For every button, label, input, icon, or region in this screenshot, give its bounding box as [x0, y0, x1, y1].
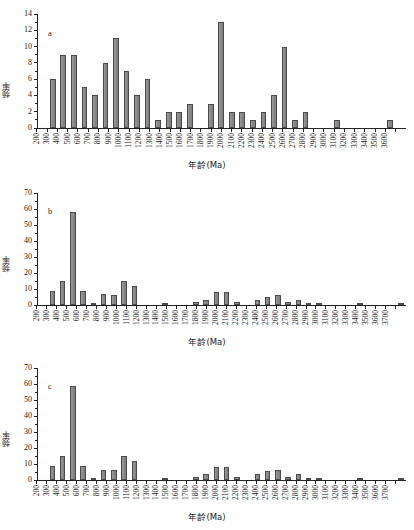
bar-slot — [248, 14, 259, 128]
x-tick-mark — [226, 481, 227, 484]
bar-slot — [150, 368, 160, 480]
bar-300 — [50, 79, 56, 128]
bar-3000 — [334, 120, 340, 128]
bar-slot — [314, 368, 324, 480]
x-tick-mark — [116, 481, 117, 484]
x-tick-mark — [306, 481, 307, 484]
y-tick-label: 10 — [24, 284, 32, 293]
bar-slot — [191, 193, 201, 305]
x-tick-label: 500 — [63, 485, 71, 496]
bar-slot — [129, 193, 139, 305]
x-tick-label: 500 — [64, 133, 72, 144]
x-tick-mark — [323, 129, 324, 132]
x-tick-mark — [66, 306, 67, 309]
bar-slot — [201, 193, 211, 305]
x-tick-label: 1900 — [202, 310, 210, 325]
bar-slot — [150, 193, 160, 305]
y-tick-label: 12 — [24, 25, 32, 34]
x-tick-label: 2300 — [242, 485, 250, 500]
x-tick-mark — [216, 306, 217, 309]
y-tick-label: 4 — [28, 90, 32, 99]
bar-900 — [111, 470, 117, 480]
y-tick-label: 10 — [24, 42, 32, 51]
x-tick-label: 2600 — [279, 133, 287, 148]
x-tick-mark — [76, 306, 77, 309]
bar-slot — [334, 193, 344, 305]
bar-slot — [386, 193, 396, 305]
bar-slot — [37, 193, 47, 305]
bar-slot — [58, 193, 68, 305]
bar-slot — [78, 193, 88, 305]
bar-slot — [237, 14, 248, 128]
x-tick-label: 1700 — [182, 310, 190, 325]
bar-700 — [92, 95, 98, 128]
x-tick-label: 1200 — [133, 485, 141, 500]
bar-slot — [37, 368, 47, 480]
x-tick-label: 1000 — [113, 310, 121, 325]
x-tick-label: 3000 — [312, 485, 320, 500]
x-tick-mark — [272, 129, 273, 132]
x-axis-line-b — [37, 305, 406, 306]
y-tick-label: 40 — [24, 411, 32, 420]
bar-300 — [50, 291, 56, 305]
bar-slot — [132, 14, 143, 128]
figure-three-histograms: 频率 a 02468101214200300400500600700800900… — [0, 0, 414, 530]
bar-slot — [201, 368, 211, 480]
bar-1900 — [218, 22, 224, 128]
x-tick-label: 3200 — [332, 485, 340, 500]
y-tick-label: 50 — [24, 220, 32, 229]
x-tick-mark — [200, 129, 201, 132]
x-tick-mark — [206, 306, 207, 309]
bar-slot — [324, 193, 334, 305]
x-tick-label: 1900 — [207, 133, 215, 148]
x-tick-label: 2200 — [232, 485, 240, 500]
x-tick-label: 1300 — [143, 310, 151, 325]
x-tick-mark — [262, 129, 263, 132]
x-tick-label: 3300 — [342, 485, 350, 500]
bar-2800 — [306, 303, 312, 305]
bar-1000 — [124, 71, 130, 128]
bar-2500 — [275, 470, 281, 480]
bar-slot — [140, 193, 150, 305]
x-tick-mark — [149, 129, 150, 132]
x-tick-label: 400 — [53, 485, 61, 496]
bar-slot — [232, 368, 242, 480]
x-tick-mark — [385, 306, 386, 309]
bar-2000 — [229, 112, 235, 128]
x-tick-label: 1200 — [135, 133, 143, 148]
x-tick-mark — [375, 129, 376, 132]
bar-slot — [121, 14, 132, 128]
x-tick-mark — [306, 306, 307, 309]
y-axis-title-c: 频率 — [1, 403, 12, 447]
x-tick-label: 800 — [93, 310, 101, 321]
x-tick-label: 3200 — [340, 133, 348, 148]
bar-slot — [353, 14, 364, 128]
x-tick-label: 2400 — [252, 310, 260, 325]
x-tick-mark — [226, 306, 227, 309]
x-tick-label: 2500 — [262, 310, 270, 325]
x-tick-mark — [303, 129, 304, 132]
bar-slot — [252, 193, 262, 305]
plot-area-b: 0102030405060702003004005006007008009001… — [37, 193, 406, 305]
bar-2600 — [285, 477, 291, 480]
x-tick-label: 700 — [84, 133, 92, 144]
x-tick-mark — [325, 481, 326, 484]
x-tick-mark — [96, 481, 97, 484]
bar-600 — [80, 291, 86, 305]
x-tick-label: 3600 — [372, 485, 380, 500]
bar-1700 — [193, 477, 199, 480]
x-tick-label: 3400 — [361, 133, 369, 148]
x-tick-mark — [180, 129, 181, 132]
bar-slot — [242, 193, 252, 305]
x-tick-label: 1900 — [202, 485, 210, 500]
chart-panel-c: 频率 c 01020304050607020030040050060070080… — [0, 355, 414, 530]
x-tick-mark — [395, 129, 396, 132]
y-tick-label: 40 — [24, 236, 32, 245]
bar-slot — [345, 368, 355, 480]
x-tick-label: 1700 — [182, 485, 190, 500]
x-tick-mark — [355, 481, 356, 484]
x-tick-mark — [176, 306, 177, 309]
bar-slot — [222, 193, 232, 305]
bar-slot — [222, 368, 232, 480]
x-tick-label: 3400 — [352, 485, 360, 500]
